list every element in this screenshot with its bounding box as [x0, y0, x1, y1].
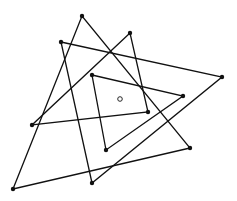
center-point [118, 97, 123, 102]
vertex-J [188, 146, 192, 150]
vertex-E [90, 73, 94, 77]
triangle-0 [13, 16, 190, 189]
triangle-3 [92, 75, 183, 150]
vertex-I [104, 148, 108, 152]
vertex-K [90, 181, 94, 185]
vertex-C [59, 40, 63, 44]
triangle-2 [32, 33, 148, 125]
vertex-H [30, 123, 34, 127]
vertex-F [181, 94, 185, 98]
vertex-B [128, 31, 132, 35]
nested-triangles-diagram [0, 0, 237, 201]
vertex-D [220, 75, 224, 79]
vertex-G [146, 110, 150, 114]
vertex-A [80, 14, 84, 18]
vertex-L [11, 187, 15, 191]
